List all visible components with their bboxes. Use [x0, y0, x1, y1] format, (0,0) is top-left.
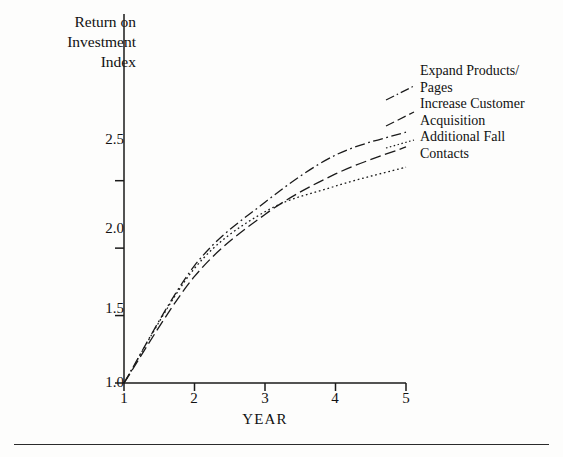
chart-plot-area [0, 0, 563, 457]
x-tick-marks [124, 383, 406, 391]
y-tick-marks [115, 181, 124, 383]
bottom-divider [14, 444, 549, 445]
series-line [124, 167, 406, 383]
axis-lines [124, 14, 406, 383]
series-line [124, 147, 406, 383]
legend-leader-lines [386, 86, 414, 148]
roi-line-chart-figure: Return on Investment Index Expand Produc… [0, 0, 563, 457]
series-line [124, 132, 406, 383]
series-lines [124, 132, 406, 383]
